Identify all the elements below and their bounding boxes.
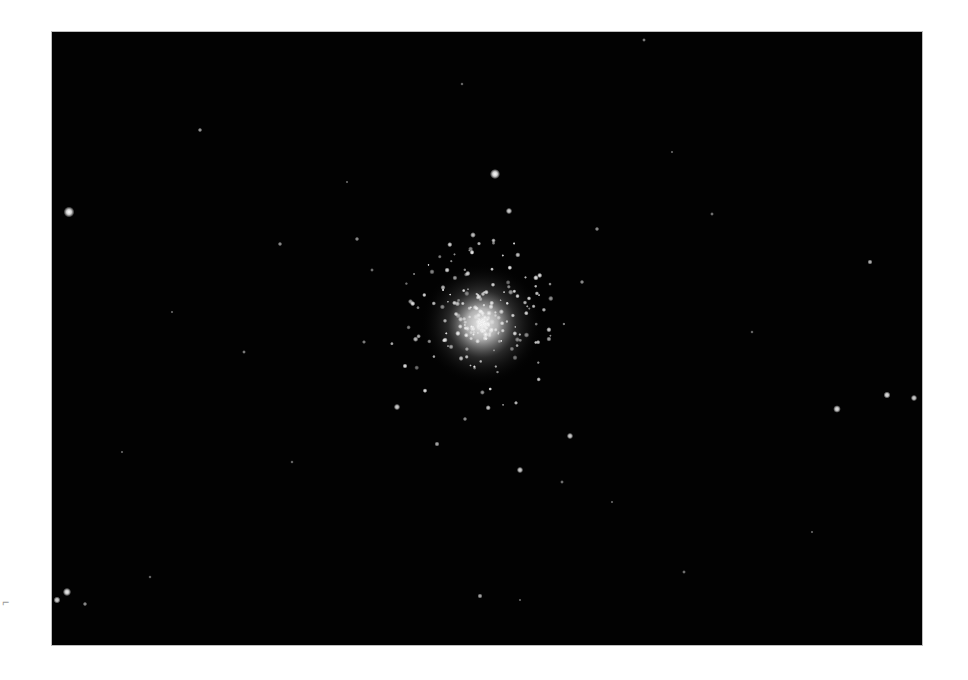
globular-cluster	[390, 238, 566, 410]
cluster-star	[472, 325, 475, 328]
cluster-star	[480, 320, 485, 325]
cluster-star	[427, 339, 431, 343]
cluster-star	[510, 347, 515, 352]
star	[64, 207, 75, 218]
cluster-star	[414, 365, 419, 370]
cluster-star	[494, 311, 497, 314]
cluster-star	[473, 314, 478, 319]
cluster-star	[489, 301, 494, 306]
cluster-star	[494, 314, 498, 318]
cluster-star	[515, 337, 520, 342]
cluster-star	[469, 364, 472, 367]
cluster-star	[494, 365, 497, 368]
star	[198, 128, 202, 132]
star	[833, 405, 841, 413]
cluster-star	[465, 347, 469, 351]
cluster-star	[507, 265, 512, 270]
cluster-star	[422, 293, 426, 297]
star	[470, 232, 476, 238]
star	[460, 82, 464, 86]
cluster-star	[511, 313, 515, 317]
cluster-star	[506, 302, 509, 305]
cluster-star	[512, 355, 517, 360]
cluster-star	[469, 337, 473, 341]
cluster-star	[443, 319, 447, 323]
cluster-star	[483, 336, 488, 341]
night-sky-canvas	[52, 32, 922, 645]
cluster-star	[468, 246, 473, 251]
star	[518, 598, 521, 601]
star	[355, 237, 359, 241]
cluster-star	[472, 330, 476, 334]
cluster-star	[524, 332, 530, 338]
star	[560, 480, 564, 484]
cluster-star	[487, 333, 492, 338]
star	[517, 467, 523, 473]
cluster-star	[467, 306, 471, 310]
star	[63, 588, 71, 596]
cluster-star	[486, 405, 491, 410]
cluster-star	[476, 295, 480, 299]
star	[567, 433, 573, 439]
cluster-star	[479, 360, 483, 364]
cluster-star	[515, 294, 520, 299]
cluster-star	[514, 326, 516, 328]
cluster-star	[442, 337, 447, 342]
cluster-star	[499, 299, 501, 301]
cluster-star	[467, 288, 469, 290]
cluster-star	[487, 323, 491, 327]
star	[242, 350, 246, 354]
cluster-star	[493, 349, 496, 352]
cluster-star	[444, 267, 449, 272]
cluster-star	[440, 304, 445, 309]
cluster-star	[427, 264, 429, 266]
cluster-star	[473, 365, 476, 368]
cluster-star	[491, 282, 496, 287]
cluster-star	[406, 325, 411, 330]
star	[120, 450, 123, 453]
cluster-star	[432, 301, 437, 306]
cluster-star	[410, 301, 415, 306]
cluster-star	[484, 290, 489, 295]
star	[83, 602, 87, 606]
star	[810, 530, 813, 533]
cluster-star	[527, 296, 532, 301]
star	[290, 460, 294, 464]
cluster-star	[464, 272, 468, 276]
cluster-star	[534, 341, 538, 345]
cluster-star	[523, 300, 527, 304]
star	[463, 417, 467, 421]
cluster-star	[562, 322, 565, 325]
star	[883, 391, 890, 398]
cluster-star	[482, 304, 485, 307]
cluster-star	[508, 289, 514, 295]
cluster-star	[452, 275, 457, 280]
cluster-star	[524, 276, 527, 279]
cluster-star	[500, 321, 505, 326]
cluster-star	[507, 285, 511, 289]
cluster-star	[499, 309, 504, 314]
star	[710, 212, 714, 216]
cluster-star	[513, 242, 516, 245]
star	[370, 268, 374, 272]
cluster-star	[518, 333, 521, 336]
star	[278, 242, 282, 246]
cluster-star	[515, 252, 520, 257]
cluster-star	[476, 332, 479, 335]
cluster-star	[501, 329, 505, 333]
cluster-star	[534, 285, 537, 288]
star	[642, 38, 646, 42]
margin-mark: ⌐	[2, 596, 9, 608]
cluster-star	[479, 309, 484, 314]
cluster-star	[450, 260, 453, 263]
cluster-star	[497, 332, 500, 335]
cluster-star	[546, 327, 551, 332]
cluster-star	[496, 370, 499, 373]
cluster-star	[524, 311, 529, 316]
star	[670, 150, 673, 153]
star	[170, 310, 173, 313]
star	[580, 280, 584, 284]
cluster-star	[432, 355, 436, 359]
star	[148, 575, 152, 579]
cluster-star	[548, 282, 552, 286]
